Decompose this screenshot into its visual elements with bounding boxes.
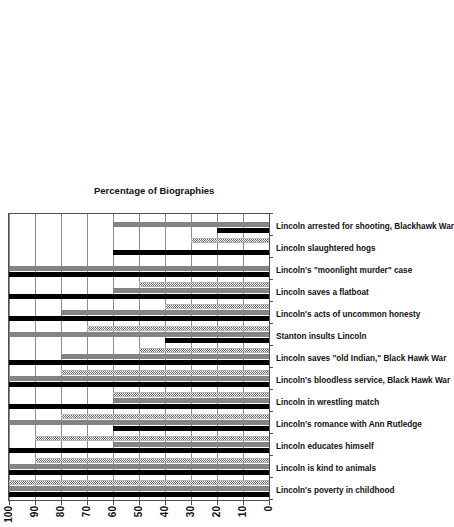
- category-labels: Lincoln's poverty in childhoodLincoln is…: [276, 213, 336, 519]
- bar: [61, 414, 269, 419]
- bar: [217, 228, 269, 233]
- x-tick-label: 90: [30, 506, 40, 527]
- bar: [113, 288, 269, 293]
- category-label: Lincoln's bloodless service, Black Hawk …: [276, 377, 450, 385]
- bar-group: [9, 434, 269, 453]
- bar: [9, 376, 269, 381]
- category-label: Lincoln's acts of uncommon honesty: [276, 311, 420, 319]
- x-tick-label: 40: [160, 506, 170, 527]
- bar: [9, 294, 269, 299]
- category-tick: [269, 301, 273, 302]
- bar-group: [9, 236, 269, 255]
- bar: [9, 360, 269, 365]
- bar-group: [9, 456, 269, 475]
- x-tick-label: 30: [186, 506, 196, 527]
- bar: [87, 326, 269, 331]
- x-tick-label: 20: [212, 506, 222, 527]
- bar: [9, 272, 269, 277]
- bar: [9, 404, 269, 409]
- bar: [9, 448, 269, 453]
- bar-group: [9, 302, 269, 321]
- category-label: Lincoln is kind to animals: [276, 465, 376, 473]
- category-tick: [269, 411, 273, 412]
- x-tick-label: 100: [4, 506, 14, 527]
- category-tick: [269, 477, 273, 478]
- category-label: Lincoln's romance with Ann Rutledge: [276, 421, 422, 429]
- bar: [61, 310, 269, 315]
- bar-group: [9, 368, 269, 387]
- category-tick: [269, 235, 273, 236]
- bar: [61, 354, 269, 359]
- category-tick: [269, 213, 273, 214]
- category-tick: [269, 323, 273, 324]
- category-tick: [269, 433, 273, 434]
- category-label: Lincoln in wrestling match: [276, 399, 379, 407]
- bar: [165, 338, 269, 343]
- x-tick-mark: [191, 500, 192, 505]
- bar: [113, 398, 269, 403]
- category-tick: [269, 455, 273, 456]
- plot-area: 0102030405060708090100: [8, 213, 270, 501]
- bar: [9, 464, 269, 469]
- x-tick-label: 0: [264, 506, 274, 527]
- bar: [113, 222, 269, 227]
- category-tick: [269, 345, 273, 346]
- x-tick-label: 80: [56, 506, 66, 527]
- x-tick-mark: [35, 500, 36, 505]
- category-tick: [269, 389, 273, 390]
- bar: [9, 470, 269, 475]
- bar: [9, 332, 269, 337]
- bar-group: [9, 214, 269, 233]
- bar: [139, 348, 269, 353]
- bar: [113, 426, 269, 431]
- x-tick-label: 10: [238, 506, 248, 527]
- bar: [9, 316, 269, 321]
- category-tick: [269, 499, 273, 500]
- x-tick-mark: [243, 500, 244, 505]
- bar: [9, 382, 269, 387]
- category-tick: [269, 257, 273, 258]
- category-label: Lincoln's "moonlight murder" case: [276, 267, 412, 275]
- bar: [35, 458, 269, 463]
- bar: [113, 392, 269, 397]
- x-tick-mark: [269, 500, 270, 505]
- bar: [9, 492, 269, 497]
- category-label: Lincoln educates himself: [276, 443, 374, 451]
- bar: [9, 480, 269, 485]
- bar: [9, 420, 269, 425]
- category-label: Lincoln slaughtered hogs: [276, 245, 376, 253]
- category-label: Lincoln saves "old Indian," Black Hawk W…: [276, 355, 446, 363]
- category-tick: [269, 279, 273, 280]
- x-tick-mark: [139, 500, 140, 505]
- bar: [139, 282, 269, 287]
- x-axis-title: Percentage of Biographies: [94, 185, 356, 196]
- bar: [35, 436, 269, 441]
- x-tick-mark: [217, 500, 218, 505]
- bar: [113, 442, 269, 447]
- bar: [61, 370, 269, 375]
- bar: [165, 304, 269, 309]
- bar-group: [9, 390, 269, 409]
- bar-group: [9, 478, 269, 497]
- x-tick-mark: [9, 500, 10, 505]
- category-label: Lincoln saves a flatboat: [276, 289, 369, 297]
- x-tick-mark: [165, 500, 166, 505]
- bar-group: [9, 258, 269, 277]
- x-tick-label: 50: [134, 506, 144, 527]
- x-tick-mark: [61, 500, 62, 505]
- bar: [9, 266, 269, 271]
- bar-group: [9, 412, 269, 431]
- x-tick-mark: [113, 500, 114, 505]
- bar-group: [9, 324, 269, 343]
- category-label: Lincoln's poverty in childhood: [276, 487, 394, 495]
- bar: [191, 238, 269, 243]
- category-tick: [269, 367, 273, 368]
- category-label: Lincoln arrested for shooting, Blackhawk…: [276, 223, 454, 231]
- bar: [9, 486, 269, 491]
- category-label: Stanton insults Lincoln: [276, 333, 367, 341]
- bar-group: [9, 346, 269, 365]
- bar-group: [9, 280, 269, 299]
- x-tick-mark: [87, 500, 88, 505]
